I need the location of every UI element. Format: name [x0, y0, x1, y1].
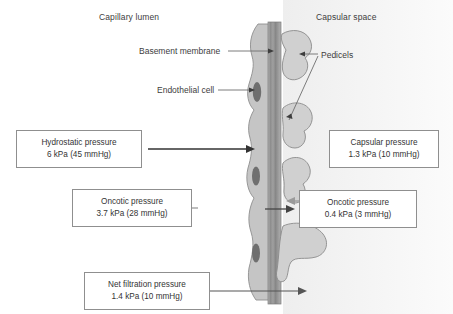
- pressure-box-net-filtration: Net filtration pressure 1.4 kPa (10 mmHg…: [84, 272, 210, 310]
- pressure-title: Capsular pressure: [351, 137, 418, 149]
- structure-label-pedicels: Pedicels: [321, 50, 353, 60]
- pressure-box-oncotic-plasma: Oncotic pressure 3.7 kPa (28 mmHg): [72, 189, 192, 227]
- pressure-title: Hydrostatic pressure: [41, 137, 116, 149]
- arrow-hydrostatic: [148, 145, 255, 153]
- pressure-value: 3.7 kPa (28 mmHg): [97, 208, 168, 220]
- pressure-value: 1.4 kPa (10 mmHg): [112, 291, 183, 303]
- pressure-value: 1.3 kPa (10 mmHg): [349, 149, 420, 161]
- pressure-box-hydrostatic: Hydrostatic pressure 6 kPa (45 mmHg): [16, 130, 142, 168]
- arrow-oncotic-filtrate: [265, 205, 295, 213]
- pressure-value: 0.4 kPa (3 mmHg): [325, 209, 391, 221]
- region-label-capillary-lumen: Capillary lumen: [99, 12, 159, 22]
- pressure-box-capsular: Capsular pressure 1.3 kPa (10 mmHg): [329, 130, 439, 168]
- pressure-title: Oncotic pressure: [327, 197, 389, 209]
- structure-label-basement-membrane: Basement membrane: [139, 46, 220, 56]
- structure-label-endothelial-cell: Endothelial cell: [157, 85, 214, 95]
- pressure-title: Net filtration pressure: [108, 279, 186, 291]
- pressure-value: 6 kPa (45 mmHg): [47, 149, 111, 161]
- pressure-box-oncotic-filtrate: Oncotic pressure 0.4 kPa (3 mmHg): [299, 190, 417, 228]
- pressure-title: Oncotic pressure: [101, 196, 163, 208]
- diagram-canvas: Capillary lumen Capsular space Basement …: [0, 0, 453, 314]
- region-label-capsular-space: Capsular space: [316, 12, 376, 22]
